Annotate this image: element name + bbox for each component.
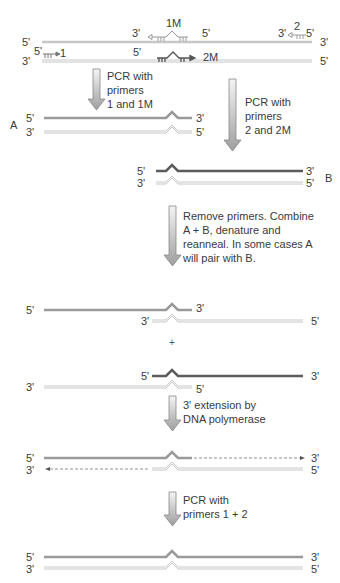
primer-2M-5prime: 5' (133, 46, 141, 59)
pcr-mutagenesis-diagram (0, 0, 340, 583)
primer-2-icon (288, 33, 306, 40)
template-dna (42, 42, 312, 62)
primer-2M-name: 2M (203, 51, 218, 64)
product-B-bottom-5prime: 5' (306, 177, 314, 190)
primer-1M-name: 1M (166, 17, 181, 30)
plus-sign: + (169, 337, 175, 348)
step-extension: 3' extension by DNA polymerase (183, 398, 266, 426)
hybrid-1-top-5prime: 5' (26, 304, 34, 317)
product-B-label: B (325, 172, 332, 185)
hybrid-2-bottom-5prime: 5' (196, 383, 204, 396)
product-A-top-5prime: 5' (26, 112, 34, 125)
hybrid-1-bottom-3prime: 3' (141, 315, 149, 328)
primer-1-icon (43, 52, 60, 58)
final-product-dna (44, 551, 303, 569)
product-A-dna (44, 112, 192, 133)
step-pcr-1-1M: PCR with primers 1 and 1M (107, 69, 153, 111)
product-A-label: A (10, 119, 17, 132)
extended-bottom-5prime: 5' (311, 464, 319, 477)
step-combine: Remove primers. Combine A + B, denature … (183, 209, 314, 265)
extended-bottom-3prime: 3' (26, 464, 34, 477)
product-A-bottom-5prime: 5' (196, 126, 204, 139)
primer-2-5prime: 5' (306, 27, 314, 40)
step-pcr-final: PCR with primers 1 + 2 (183, 493, 248, 521)
product-A-top-3prime: 3' (196, 112, 204, 125)
final-bottom-3prime: 3' (26, 563, 34, 576)
hybrid-1-dna (44, 304, 303, 322)
hybrid-2-bottom-3prime: 3' (26, 381, 34, 394)
primer-2-name: 2 (294, 20, 300, 33)
primer-1M-5prime: 5' (202, 27, 210, 40)
template-top-5prime: 5' (22, 36, 30, 49)
down-arrow-icon (164, 396, 181, 431)
product-A-bottom-3prime: 3' (26, 126, 34, 139)
step-pcr-2-2M: PCR with primers 2 and 2M (245, 95, 291, 137)
product-B-bottom-3prime: 3' (137, 177, 145, 190)
hybrid-2-top-5prime: 5' (141, 370, 149, 383)
primer-1M-icon (148, 31, 188, 41)
product-B-dna (156, 165, 303, 184)
hybrid-2-top-3prime: 3' (311, 370, 319, 383)
down-arrow-icon (164, 206, 181, 266)
primer-2-3prime: 3' (278, 27, 286, 40)
down-arrow-icon (164, 492, 181, 526)
template-bottom-5prime: 5' (320, 55, 328, 68)
primer-1M-3prime: 3' (132, 27, 140, 40)
primer-1-end-label: 5' (34, 45, 42, 58)
hybrid-2-dna (44, 370, 303, 388)
template-bottom-3prime: 3' (22, 55, 30, 68)
down-arrow-icon (224, 79, 241, 151)
hybrid-1-bottom-5prime: 5' (311, 315, 319, 328)
extended-dna (44, 452, 305, 471)
primer-1-name: 1 (60, 47, 66, 60)
final-bottom-5prime: 5' (311, 563, 319, 576)
hybrid-1-top-3prime: 3' (196, 302, 204, 315)
down-arrow-icon (88, 69, 105, 110)
template-top-3prime: 3' (320, 36, 328, 49)
